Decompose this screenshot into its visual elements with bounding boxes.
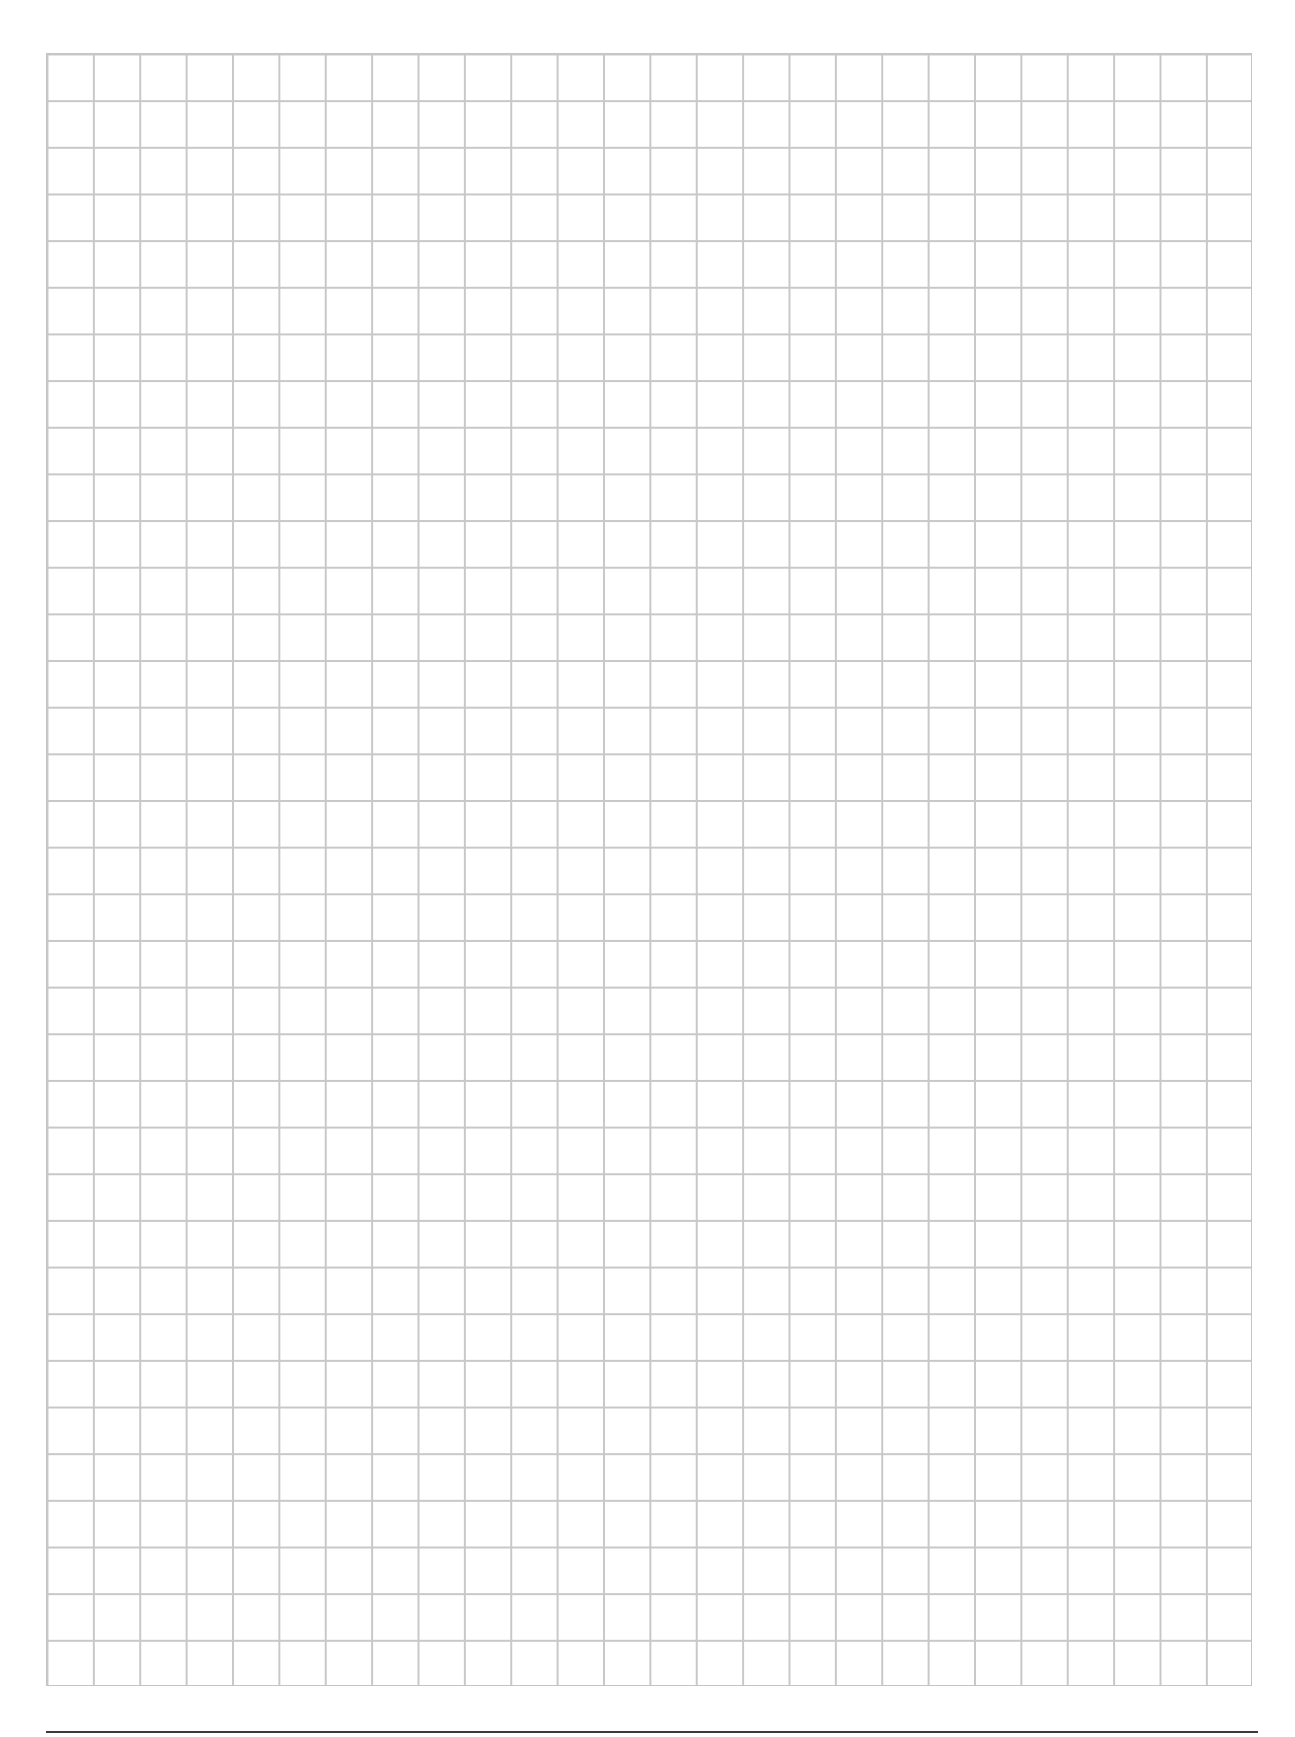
grid-area (46, 53, 1252, 1686)
footer-rule-line (46, 1731, 1258, 1733)
